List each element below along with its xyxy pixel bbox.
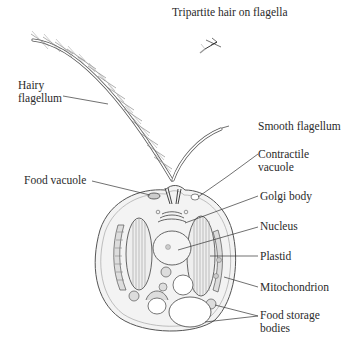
food-vacuole — [148, 193, 160, 199]
plastid-left — [126, 218, 152, 290]
tripartite-hair-illustration — [200, 38, 217, 53]
label-food-vacuole: Food vacuole — [24, 174, 86, 187]
diagram-canvas: Tripartite hair on flagella Hairy flagel… — [0, 0, 356, 353]
label-smooth-flagellum: Smooth flagellum — [258, 120, 341, 133]
label-tripartite-hair: Tripartite hair on flagella — [172, 6, 288, 19]
label-mitochondrion: Mitochondrion — [260, 281, 329, 294]
label-golgi-body: Golgi body — [260, 190, 312, 203]
label-nucleus: Nucleus — [260, 220, 298, 233]
food-storage-body — [169, 297, 211, 327]
contractile-vacuole — [191, 194, 199, 200]
label-hairy-flagellum: Hairy flagellum — [18, 79, 62, 105]
smooth-flagellum — [173, 129, 221, 180]
label-plastid: Plastid — [260, 250, 291, 263]
hairy-flagellum — [31, 31, 172, 180]
label-contractile-vacuole: Contractile vacuole — [258, 148, 309, 174]
label-food-storage-bodies: Food storage bodies — [260, 309, 320, 335]
